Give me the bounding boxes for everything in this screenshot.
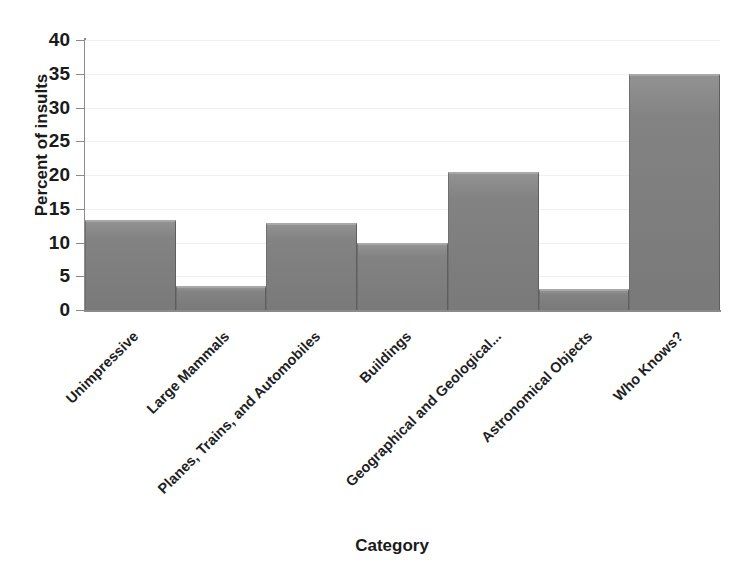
bar-chart: Percent of insults 4035302520151050 Unim… bbox=[0, 0, 744, 577]
bar bbox=[357, 243, 448, 311]
y-axis-tick-mark bbox=[76, 40, 84, 41]
bar-series bbox=[85, 40, 720, 310]
y-axis-tick-label: 25 bbox=[40, 131, 70, 150]
y-axis-tick-label: 30 bbox=[40, 98, 70, 117]
bar bbox=[539, 289, 630, 310]
y-axis-tick-label: 5 bbox=[40, 266, 70, 285]
y-axis-tick-label: 15 bbox=[40, 199, 70, 218]
y-axis-tick-mark bbox=[76, 141, 84, 142]
x-axis-title: Category bbox=[0, 536, 744, 556]
bar bbox=[448, 172, 539, 310]
bar bbox=[176, 286, 267, 310]
y-axis-tick-mark bbox=[76, 108, 84, 109]
bar bbox=[85, 220, 176, 310]
y-axis-tick-label: 40 bbox=[40, 30, 70, 49]
bar bbox=[629, 74, 720, 310]
plot-area bbox=[85, 40, 720, 310]
y-axis-tick-mark bbox=[76, 276, 84, 277]
x-axis-category-label: Who Knows? bbox=[463, 328, 686, 551]
y-axis-tick-label: 10 bbox=[40, 233, 70, 252]
y-axis-tick-label: 20 bbox=[40, 165, 70, 184]
y-axis-tick-mark bbox=[76, 175, 84, 176]
y-axis-tick-label: 35 bbox=[40, 64, 70, 83]
y-axis-tick-mark bbox=[76, 310, 84, 311]
y-axis-tick-mark bbox=[76, 209, 84, 210]
y-axis-tick-mark bbox=[76, 243, 84, 244]
bar bbox=[266, 223, 357, 310]
y-axis-tick-mark bbox=[76, 74, 84, 75]
x-axis-category-labels: UnimpressiveLarge MammalsPlanes, Trains,… bbox=[0, 312, 744, 502]
